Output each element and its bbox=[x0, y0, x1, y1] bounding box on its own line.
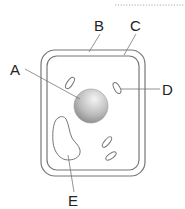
label-b: B bbox=[94, 18, 104, 33]
leader-line-b bbox=[89, 34, 100, 52]
label-a: A bbox=[10, 62, 20, 77]
cell-diagram bbox=[0, 0, 185, 209]
leader-line-c bbox=[124, 34, 136, 55]
label-c: C bbox=[130, 18, 141, 33]
label-d: D bbox=[162, 82, 173, 97]
chloroplast bbox=[112, 81, 123, 94]
chloroplast bbox=[101, 135, 113, 148]
label-e: E bbox=[68, 193, 78, 208]
nucleus bbox=[74, 89, 108, 123]
leader-line-e bbox=[68, 155, 74, 192]
chloroplast bbox=[64, 76, 76, 90]
vacuole bbox=[53, 117, 80, 160]
chloroplast bbox=[105, 151, 118, 162]
